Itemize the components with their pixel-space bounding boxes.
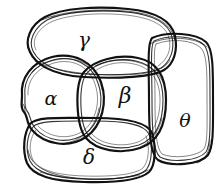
region-label-alpha: α xyxy=(45,89,58,108)
region-diagram: γ α β δ θ xyxy=(0,0,218,191)
region-label-delta: δ xyxy=(83,147,95,167)
region-label-gamma: γ xyxy=(78,30,90,50)
region-label-beta: β xyxy=(119,85,132,107)
diagram-canvas xyxy=(0,0,218,191)
region-label-theta: θ xyxy=(179,111,190,130)
